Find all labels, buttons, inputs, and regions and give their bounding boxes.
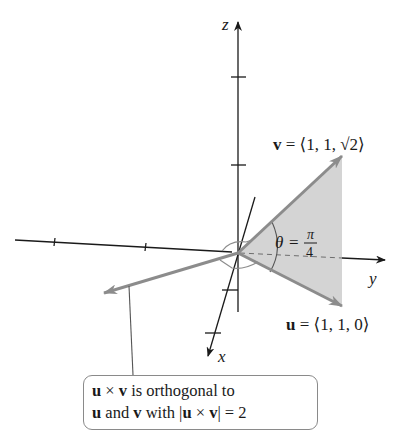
callout-leader-line <box>129 286 133 375</box>
y-axis-negative <box>15 240 232 252</box>
callout-line-1: u × v is orthogonal to <box>92 380 317 402</box>
vector-v-label: v = ⟨1, 1, √2⟩ <box>273 135 365 154</box>
tick <box>145 243 146 251</box>
svg-text:π: π <box>307 227 315 242</box>
x-axis <box>208 197 255 356</box>
x-axis-label: x <box>217 347 226 366</box>
tick <box>54 238 55 246</box>
vector-u-cross-v <box>104 253 238 293</box>
svg-text:θ: θ <box>275 233 283 252</box>
y-axis-label: y <box>367 269 377 288</box>
vector-u-label: u = ⟨1, 1, 0⟩ <box>286 315 369 334</box>
svg-text:=: = <box>289 233 299 252</box>
y-axis <box>342 258 385 260</box>
z-axis-label: z <box>221 15 229 34</box>
callout-line-2: u and v with |u × v| = 2 <box>92 402 317 424</box>
svg-text:4: 4 <box>306 245 313 260</box>
shaded-plane-region <box>238 156 342 306</box>
callout-box: u × v is orthogonal to u and v with |u ×… <box>83 375 318 430</box>
